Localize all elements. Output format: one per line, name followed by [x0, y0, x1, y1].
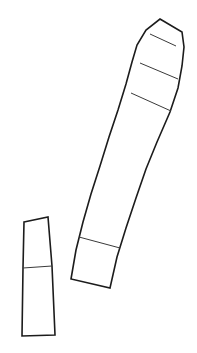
shape-straight-strip: [22, 217, 55, 336]
figure-root: [0, 0, 197, 353]
straight-strip-outline: [22, 217, 55, 336]
figure-canvas: [0, 0, 197, 353]
